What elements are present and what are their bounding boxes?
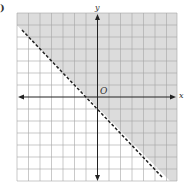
y-axis-bottom-arrow-icon [95,175,100,181]
origin-label: O [100,86,107,96]
coordinate-plane [0,0,189,193]
y-axis-label: y [95,3,100,12]
x-axis-left-arrow-icon [18,95,24,100]
x-axis-label: x [179,91,184,100]
